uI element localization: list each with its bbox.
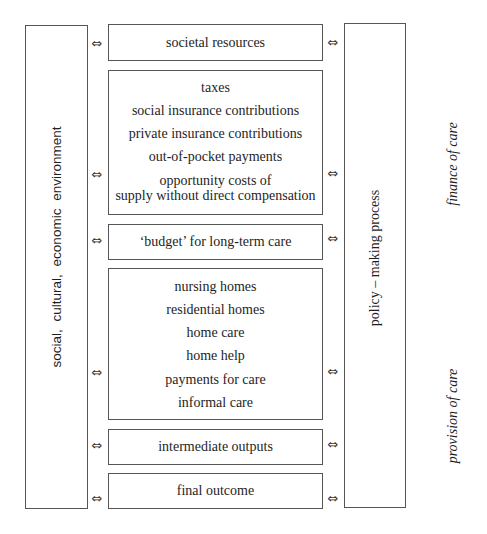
double-arrow-icon: ⇔ [325,37,341,49]
finance-item-supply-without-compensation: supply without direct compensation [109,188,322,204]
double-arrow-icon: ⇔ [89,493,105,505]
double-arrow-icon: ⇔ [89,440,105,452]
budget-box: ‘budget’ for long-term care [108,224,323,260]
provision-item-nursing-homes: nursing homes [109,279,322,295]
budget-text: ‘budget’ for long-term care [109,234,322,250]
double-arrow-icon: ⇔ [325,168,341,180]
double-arrow-icon: ⇔ [89,38,105,50]
double-arrow-icon: ⇔ [89,169,105,181]
final-outcome-text: final outcome [109,483,322,499]
provision-item-residential-homes: residential homes [109,302,322,318]
provision-box: nursing homes residential homes home car… [108,268,323,420]
societal-resources-box: societal resources [108,24,323,61]
provision-item-payments-for-care: payments for care [109,372,322,388]
intermediate-outputs-box: intermediate outputs [108,429,323,465]
intermediate-outputs-text: intermediate outputs [109,439,322,455]
finance-item-social-insurance: social insurance contributions [109,103,322,119]
finance-item-private-insurance: private insurance contributions [109,126,322,142]
policy-label: policy – making process [367,190,383,326]
provision-item-home-care: home care [109,325,322,341]
societal-resources-text: societal resources [109,35,322,51]
provision-of-care-label: provision of care [445,369,461,464]
finance-sources-box: taxes social insurance contributions pri… [108,70,323,215]
double-arrow-icon: ⇔ [325,366,341,378]
environment-label: social, cultural, economic environment [49,127,65,368]
double-arrow-icon: ⇔ [325,439,341,451]
provision-item-informal-care: informal care [109,395,322,411]
finance-item-opportunity-costs: opportunity costs of [109,173,322,189]
double-arrow-icon: ⇔ [89,235,105,247]
finance-of-care-label: finance of care [445,122,461,205]
finance-item-out-of-pocket: out-of-pocket payments [109,149,322,165]
finance-item-taxes: taxes [109,80,322,96]
provision-item-home-help: home help [109,348,322,364]
double-arrow-icon: ⇔ [325,233,341,245]
double-arrow-icon: ⇔ [89,367,105,379]
double-arrow-icon: ⇔ [325,493,341,505]
final-outcome-box: final outcome [108,473,323,509]
